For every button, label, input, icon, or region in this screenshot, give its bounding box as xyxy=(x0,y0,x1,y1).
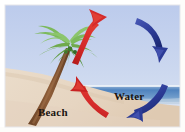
water-label: Water xyxy=(114,90,144,102)
beach-label: Beach xyxy=(38,106,68,118)
scene-canvas: Beach Water xyxy=(0,0,185,132)
sea-breeze-illustration: Beach Water xyxy=(0,0,185,132)
